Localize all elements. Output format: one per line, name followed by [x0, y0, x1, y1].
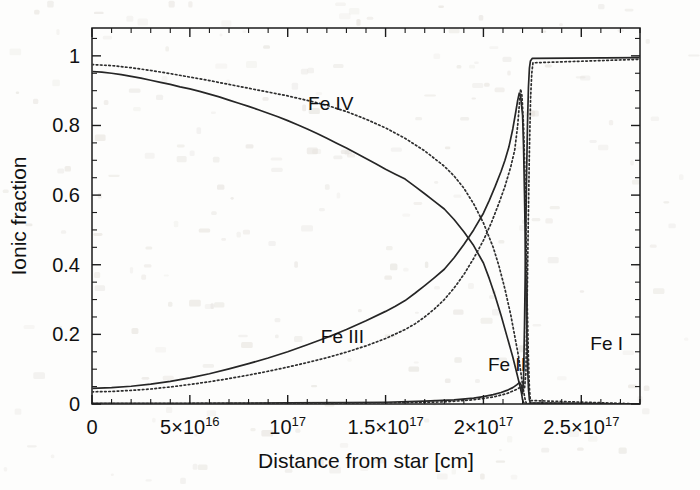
y-axis-title: Ionic fraction: [7, 156, 30, 275]
y-tick-label-4: 0.8: [52, 114, 80, 136]
ionic-fraction-chart: 05×101610171.5×10172×10172.5×1017 00.20.…: [0, 0, 700, 490]
y-tick-label-5: 1: [69, 45, 80, 67]
y-tick-labels: 00.20.40.60.81: [52, 45, 80, 415]
x-tick-label-1: 5×1016: [160, 414, 220, 438]
axes-frame: [92, 28, 640, 404]
axis-ticks: [92, 28, 640, 404]
y-tick-label-1: 0.2: [52, 323, 80, 345]
curve-3: [92, 89, 640, 404]
x-tick-labels: 05×101610171.5×10172×10172.5×1017: [86, 414, 619, 438]
curve-2: [92, 93, 640, 404]
figure-container: 05×101610171.5×10172×10172.5×1017 00.20.…: [0, 0, 700, 490]
data-curves: [92, 58, 640, 404]
y-tick-label-2: 0.4: [52, 254, 80, 276]
curve-0: [92, 72, 640, 404]
curve-4: [92, 58, 640, 404]
y-tick-label-3: 0.6: [52, 184, 80, 206]
x-tick-label-5: 2.5×1017: [543, 414, 619, 438]
series-label-fe4: Fe IV: [308, 93, 354, 114]
curve-1: [92, 65, 640, 404]
series-label-fe2: Fe II: [488, 354, 526, 375]
x-tick-label-0: 0: [86, 416, 97, 438]
series-label-fe3: Fe III: [321, 326, 364, 347]
y-tick-label-0: 0: [69, 393, 80, 415]
x-axis-title: Distance from star [cm]: [258, 449, 474, 472]
series-label-fe1: Fe I: [590, 333, 623, 354]
curve-5: [92, 59, 640, 403]
x-tick-label-2: 1017: [269, 414, 306, 438]
x-tick-label-4: 2×1017: [454, 414, 514, 438]
x-tick-label-3: 1.5×1017: [347, 414, 423, 438]
